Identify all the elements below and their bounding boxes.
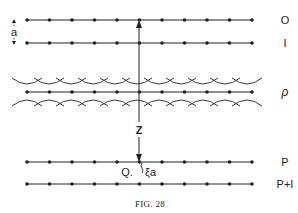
plane-label-plane-0: O <box>281 14 290 26</box>
lattice-atom-dot <box>160 182 164 186</box>
lattice-atom-dot <box>93 182 97 186</box>
lattice-atom-dot <box>115 18 119 22</box>
lattice-atom-dot <box>93 160 97 164</box>
lattice-atom-dot <box>25 160 29 164</box>
lattice-atom-dot <box>25 90 29 94</box>
lattice-atom-dot <box>70 90 74 94</box>
lattice-atom-dot <box>48 160 52 164</box>
displacement-brace-icon <box>141 163 143 173</box>
plane-label-plane-rho: ρ <box>281 85 289 99</box>
lattice-atom-dot <box>25 182 29 186</box>
z-axis-up-arrowhead <box>136 20 142 28</box>
lattice-atom-dot <box>228 90 232 94</box>
lattice-atom-dot <box>70 182 74 186</box>
wavefront-upper <box>12 78 262 84</box>
plane-1: I <box>25 37 286 49</box>
lattice-atom-dot <box>250 90 254 94</box>
point-label-q: Q. <box>121 166 133 178</box>
spacing-arrow-down <box>12 41 16 45</box>
lattice-atom-dot <box>228 18 232 22</box>
lattice-atom-dot <box>70 160 74 164</box>
lattice-atom-dot <box>115 160 119 164</box>
lattice-atom-dot <box>25 18 29 22</box>
wave-arc <box>232 78 262 84</box>
spacing-label-a: a <box>11 26 18 38</box>
lattice-atom-dot <box>93 18 97 22</box>
lattice-atom-dot <box>115 182 119 186</box>
lattice-atom-dot <box>48 182 52 186</box>
planes-layer: OIρPP+I <box>25 14 293 190</box>
lattice-atom-dot <box>48 41 52 45</box>
lattice-atom-dot <box>205 18 209 22</box>
wavefront-lower <box>12 100 262 106</box>
plane-P: P <box>25 156 288 168</box>
plane-0: O <box>25 14 290 26</box>
lattice-atom-dot <box>205 90 209 94</box>
figure-caption: FIG. 28 <box>135 199 165 209</box>
lattice-atom-dot <box>228 182 232 186</box>
lattice-atom-dot <box>138 18 142 22</box>
z-axis: Z <box>136 20 143 162</box>
diagram-canvas: OIρPP+I Z a Q. ξa FIG. 28 <box>0 0 298 213</box>
wave-arc <box>232 100 262 106</box>
lattice-atom-dot <box>93 90 97 94</box>
lattice-atom-dot <box>183 160 187 164</box>
displacement-annotation: Q. ξa <box>121 163 157 178</box>
lattice-atom-dot <box>160 160 164 164</box>
spacing-arrow-up <box>12 19 16 23</box>
z-axis-down-arrowhead <box>136 154 142 162</box>
lattice-atom-dot <box>138 160 142 164</box>
lattice-atom-dot <box>250 160 254 164</box>
lattice-atom-dot <box>250 182 254 186</box>
lattice-atom-dot <box>93 41 97 45</box>
lattice-atom-dot <box>183 41 187 45</box>
lattice-atom-dot <box>160 18 164 22</box>
plane-label-plane-1: I <box>283 37 286 49</box>
lattice-atom-dot <box>205 41 209 45</box>
lattice-atom-dot <box>183 18 187 22</box>
plane-rho: ρ <box>25 85 288 99</box>
lattice-atom-dot <box>205 160 209 164</box>
lattice-atom-dot <box>48 90 52 94</box>
lattice-atom-dot <box>228 160 232 164</box>
lattice-atom-dot <box>183 182 187 186</box>
lattice-atom-dot <box>250 18 254 22</box>
lattice-atom-dot <box>115 41 119 45</box>
lattice-atom-dot <box>160 41 164 45</box>
plane-P1: P+I <box>25 178 293 190</box>
lattice-atom-dot <box>25 41 29 45</box>
lattice-atom-dot <box>250 41 254 45</box>
lattice-atom-dot <box>70 18 74 22</box>
spacing-indicator: a <box>11 19 18 45</box>
lattice-atom-dot <box>160 90 164 94</box>
lattice-atom-dot <box>48 18 52 22</box>
lattice-atom-dot <box>183 90 187 94</box>
offset-label-xi-a: ξa <box>145 166 157 178</box>
axis-label-z: Z <box>136 124 143 136</box>
lattice-atom-dot <box>115 90 119 94</box>
lattice-atom-dot <box>70 41 74 45</box>
lattice-atom-dot <box>205 182 209 186</box>
plane-label-plane-P: P <box>281 156 288 168</box>
lattice-atom-dot <box>138 182 142 186</box>
plane-label-plane-P1: P+I <box>277 178 294 190</box>
lattice-atom-dot <box>228 41 232 45</box>
